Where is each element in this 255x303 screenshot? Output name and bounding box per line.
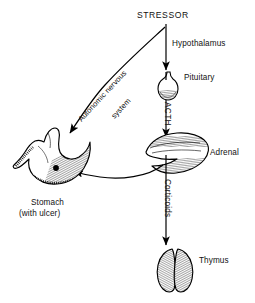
ulcer-dot-icon: [53, 165, 59, 171]
stomach-icon: [13, 128, 95, 188]
label-stomach: Stomach: [31, 198, 64, 208]
thymus-gland-icon: [155, 248, 196, 294]
label-stomach-ulcer: (with ulcer): [19, 209, 60, 219]
label-pituitary: Pituitary: [184, 73, 214, 83]
stress-response-diagram: STRESSOR Hypothalamus Pituitary ACTH Adr…: [0, 0, 255, 303]
adrenal-gland-icon: [146, 133, 208, 174]
label-hypothalamus: Hypothalamus: [172, 39, 226, 49]
label-adrenal: Adrenal: [210, 148, 239, 158]
label-corticoids: Corticoids: [162, 179, 172, 217]
pituitary-gland-icon: [156, 72, 182, 102]
page-title: STRESSOR: [137, 10, 189, 20]
label-thymus: Thymus: [199, 256, 229, 266]
adrenal-to-stomach-arrow: [75, 165, 163, 178]
label-acth: ACTH: [162, 102, 172, 126]
